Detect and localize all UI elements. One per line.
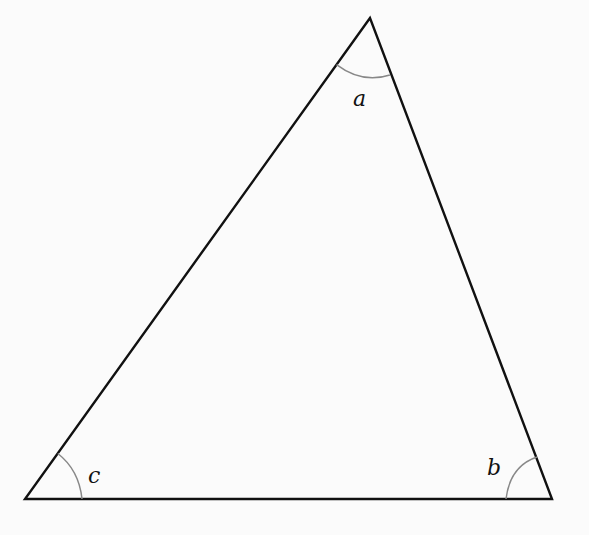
angle-label-c: c — [88, 463, 100, 488]
angle-arc-b — [506, 457, 537, 499]
angle-arc-c — [58, 454, 82, 500]
angle-label-b: b — [487, 455, 501, 480]
angle-arc-a — [337, 65, 390, 78]
triangle-diagram: a b c — [0, 0, 589, 535]
triangle-outline — [25, 18, 552, 499]
angle-label-a: a — [353, 86, 366, 111]
